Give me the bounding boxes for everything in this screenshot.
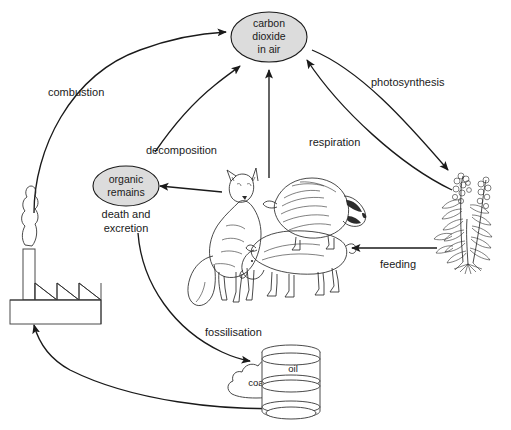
- carbon-dioxide-line1: carbon: [253, 17, 285, 29]
- label-feeding: feeding: [380, 258, 416, 270]
- label-death-line1: death and: [102, 208, 151, 220]
- node-carbon-dioxide[interactable]: carbon dioxide in air: [231, 12, 307, 62]
- label-combustion: combustion: [48, 86, 104, 98]
- oil-label: oil: [288, 363, 298, 374]
- factory-building: [10, 300, 101, 324]
- label-death-line2: excretion: [104, 222, 149, 234]
- pig-icon: [240, 231, 356, 297]
- plant-stem-mid: [467, 219, 468, 264]
- barrel-band-mid2: [262, 380, 320, 392]
- label-respiration: respiration: [309, 136, 360, 148]
- label-fossilisation: fossilisation: [205, 326, 262, 338]
- fox-icon: [188, 168, 261, 306]
- node-organic-remains[interactable]: organic remains: [93, 166, 159, 206]
- chimney: [23, 249, 35, 300]
- label-photosynthesis: photosynthesis: [371, 76, 445, 88]
- flow-fossilisation-arrow: [138, 233, 250, 361]
- animal-group-illustration: [188, 168, 366, 306]
- carbon-cycle-diagram: coal oil: [0, 0, 511, 430]
- barrel-bottom: [266, 407, 316, 419]
- plant-illustration: [434, 173, 492, 274]
- flow-decomposition-arrow: [155, 66, 240, 152]
- flow-photosynthesis-arrow: [312, 50, 448, 170]
- label-decomposition: decomposition: [146, 144, 217, 156]
- organic-remains-line2: remains: [107, 186, 144, 198]
- organic-remains-line1: organic: [109, 173, 143, 185]
- flower-spike-left: [452, 173, 471, 204]
- carbon-dioxide-line3: in air: [258, 43, 281, 55]
- badger-icon: [263, 178, 366, 250]
- plant-leaves: [434, 200, 492, 263]
- factory-illustration: [10, 186, 101, 324]
- flower-spike-right: [477, 177, 491, 209]
- flow-death-excretion-arrow: [160, 186, 222, 192]
- smoke-plume-icon: [22, 186, 38, 246]
- carbon-dioxide-line2: dioxide: [252, 30, 285, 42]
